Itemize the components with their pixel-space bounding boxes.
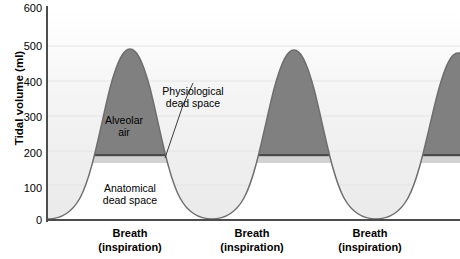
breath-3-line2: (inspiration) (310, 241, 430, 255)
alveolar-air-line2: air (93, 126, 155, 138)
breath-1-line1: Breath (70, 227, 190, 241)
anatomical-line1: Anatomical (89, 182, 171, 194)
physiological-line1: Physiological (148, 85, 238, 97)
x-label-breath-1: Breath (inspiration) (70, 227, 190, 254)
y-tick-200: 200 (8, 148, 42, 158)
alveolar-air-line1: Alveolar (93, 114, 155, 126)
anatomical-line2: dead space (89, 194, 171, 206)
y-tick-600: 600 (8, 3, 42, 13)
y-axis-tick-labels: 600 500 400 300 200 100 0 (8, 0, 42, 259)
breath-2-line1: Breath (192, 227, 312, 241)
y-tick-300: 300 (8, 112, 42, 122)
chart-root: Tidal volume (ml) 600 500 400 300 200 10… (0, 0, 460, 259)
annotation-alveolar-air: Alveolar air (93, 114, 155, 138)
y-tick-100: 100 (8, 183, 42, 193)
x-label-breath-3: Breath (inspiration) (310, 227, 430, 254)
y-axis-line (46, 6, 48, 222)
y-tick-0: 0 (8, 215, 42, 225)
x-label-breath-2: Breath (inspiration) (192, 227, 312, 254)
x-axis-line (46, 219, 460, 221)
y-tick-500: 500 (8, 41, 42, 51)
breath-3-line1: Breath (310, 227, 430, 241)
annotation-anatomical-dead-space: Anatomical dead space (89, 182, 171, 206)
breath-2-line2: (inspiration) (192, 241, 312, 255)
physiological-line2: dead space (148, 97, 238, 109)
y-tick-400: 400 (8, 77, 42, 87)
annotation-physiological-dead-space: Physiological dead space (148, 85, 238, 109)
breath-1-line2: (inspiration) (70, 241, 190, 255)
